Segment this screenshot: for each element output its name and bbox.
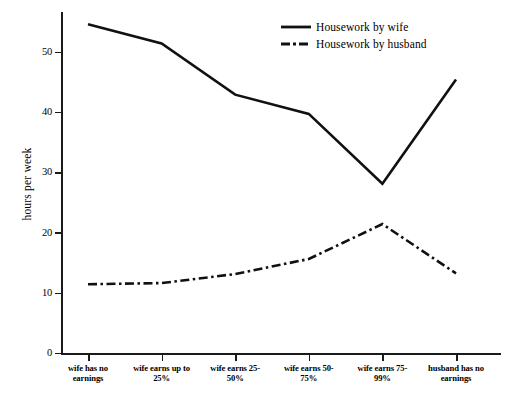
legend-item: Housework by husband — [281, 35, 427, 52]
x-axis-label: wife has noearnings — [48, 363, 128, 384]
x-axis-label-line: 50% — [195, 373, 275, 383]
x-axis-label: wife earns 50-75% — [269, 363, 349, 384]
x-axis-label-line: wife has no — [48, 363, 128, 373]
legend-item: Housework by wife — [281, 18, 427, 35]
x-axis-label-line: earnings — [416, 373, 496, 383]
y-tick-mark — [55, 353, 62, 355]
y-axis-line — [61, 12, 63, 354]
x-tick-mark — [88, 353, 90, 361]
x-tick-mark — [456, 353, 458, 361]
y-tick-label: 0 — [26, 348, 52, 359]
x-axis-label-line: wife earns up to — [122, 363, 202, 373]
legend-label: Housework by husband — [316, 38, 427, 50]
x-axis-label: wife earns up to25% — [122, 363, 202, 384]
legend-line-swatch — [281, 38, 311, 50]
y-tick-label: 10 — [26, 288, 52, 299]
x-axis-label: wife earns 25-50% — [195, 363, 275, 384]
y-tick-mark — [55, 293, 62, 295]
legend-line-swatch — [281, 21, 311, 33]
x-axis-label-line: 25% — [122, 373, 202, 383]
x-axis-label-line: 75% — [269, 373, 349, 383]
x-tick-mark — [235, 353, 237, 361]
x-tick-mark — [309, 353, 311, 361]
x-axis-label-line: wife earns 50- — [269, 363, 349, 373]
x-axis-label-line: wife earns 25- — [195, 363, 275, 373]
x-axis-label-line: husband has no — [416, 363, 496, 373]
y-tick-mark — [55, 52, 62, 54]
x-axis-label: wife earns 75-99% — [342, 363, 422, 384]
chart-legend: Housework by wifeHousework by husband — [281, 18, 427, 52]
x-axis-label-line: 99% — [342, 373, 422, 383]
series-line — [88, 224, 456, 284]
y-tick-mark — [55, 172, 62, 174]
x-axis-label-line: earnings — [48, 373, 128, 383]
x-axis-line — [61, 353, 501, 355]
x-tick-mark — [382, 353, 384, 361]
y-tick-mark — [55, 112, 62, 114]
y-tick-label: 50 — [26, 47, 52, 58]
line-chart: 01020304050 hours per week wife has noea… — [0, 0, 507, 407]
x-axis-label: husband has noearnings — [416, 363, 496, 384]
y-tick-label: 40 — [26, 107, 52, 118]
legend-label: Housework by wife — [316, 21, 408, 33]
y-tick-mark — [55, 232, 62, 234]
x-tick-mark — [162, 353, 164, 361]
y-axis-title: hours per week — [21, 124, 33, 244]
x-axis-label-line: wife earns 75- — [342, 363, 422, 373]
plot-area — [0, 0, 507, 407]
